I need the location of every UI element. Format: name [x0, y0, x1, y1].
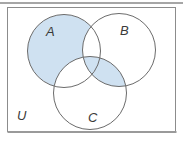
venn-diagram-svg: A B C U: [0, 0, 183, 146]
set-label-c: C: [88, 110, 98, 125]
venn-diagram-figure: A B C U: [0, 0, 183, 146]
set-label-a: A: [45, 24, 55, 39]
set-label-b: B: [120, 23, 129, 38]
universe-label: U: [17, 108, 27, 123]
